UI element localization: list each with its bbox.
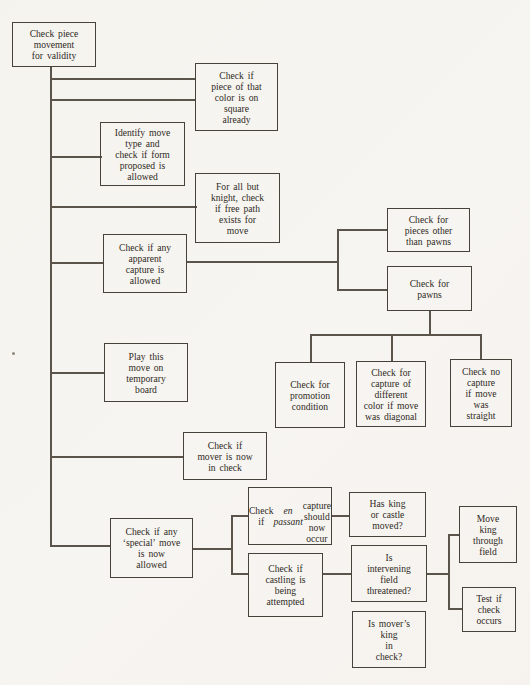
node-label: Check if mover is now in check [197,440,252,473]
node-label: Check no capture if move was straight [462,366,500,421]
node-promotion-condition: Check for promotion condition [275,362,345,428]
node-label-post: capture should now occur [303,489,331,544]
edge-to-castling [231,573,249,575]
node-label: Move king through field [473,513,503,557]
node-label-pre: Check if [249,505,274,527]
edge-special-move-out [192,548,232,550]
edge-intervening-field-out [426,573,449,575]
node-check-piece-movement: Check piece movement for validity [12,22,96,67]
edge-to-pieces-other-than-pawns [337,229,388,231]
edge-pawns-down [429,311,431,335]
edge-branch-mover-in-check [50,456,184,458]
edge-to-pawns [337,289,388,291]
node-label: Check if piece of that color is on squar… [211,70,261,125]
node-free-path: For all but knight, check if free path e… [195,173,280,243]
node-label: For all but knight, check if free path e… [211,181,264,236]
node-label: Check for pieces other than pawns [405,214,453,247]
edge-branch-special-move [50,545,111,547]
node-apparent-capture: Check if any apparent capture is allowed [103,234,187,293]
flowchart-page: Check piece movement for validity Check … [0,0,530,685]
edge-pawns-bar [310,334,481,336]
node-play-on-temporary-board: Play this move on temporary board [104,343,188,402]
edge-castling-to-intervening-field [322,573,352,575]
edge-to-test-if-check-occurs [448,608,463,610]
node-label: Is mover’s king in check? [368,618,410,662]
node-color-on-square: Check if piece of that color is on squar… [195,63,278,131]
node-movers-king-in-check: Is mover’s king in check? [352,611,426,668]
node-castling: Check if castling is being attempted [248,553,323,617]
node-pawns: Check for pawns [387,266,472,311]
node-label: Check if any apparent capture is allowed [119,242,171,286]
edge-en-passant-to-has-king-moved [331,515,350,517]
node-en-passant: Check if en passant capture should now o… [248,487,332,545]
node-has-king-or-castle-moved: Has king or castle moved? [349,492,426,537]
edge-drop-no-capture-straight [480,334,482,360]
node-test-if-check-occurs: Test if check occurs [462,587,516,632]
node-label: Check for capture of different color if … [364,367,419,422]
node-pieces-other-than-pawns: Check for pieces other than pawns [387,208,470,252]
node-label-italic: en passant [273,505,302,527]
node-label: Check for pawns [410,278,450,300]
node-no-capture-straight: Check no capture if move was straight [450,359,512,427]
node-special-move: Check if any ‘special’ move is now allow… [110,518,193,578]
edge-branch-free-path [50,206,197,208]
edge-drop-capture-different-color [391,334,393,362]
edge-to-en-passant [231,515,249,517]
edge-capture-bracket [337,229,339,290]
node-identify-move-type: Identify move type and check if form pro… [100,122,185,186]
node-intervening-field-threatened: Is intervening field threatened? [351,545,427,602]
node-label: Check for promotion condition [290,379,330,412]
edge-branch-identify-move-type [50,156,102,158]
node-label: Play this move on temporary board [126,351,165,395]
edge-drop-promotion [310,334,312,363]
node-mover-in-check: Check if mover is now in check [183,432,267,480]
node-label: Check if any ‘special’ move is now allow… [123,526,181,570]
node-label: Identify move type and check if form pro… [115,127,171,182]
edge-branch-play-on-temporary-board [50,372,105,374]
edge-branch-color-on-square-lower [50,99,196,101]
node-label: Has king or castle moved? [370,498,406,531]
edge-special-bracket [231,515,233,574]
edge-trunk [50,67,52,546]
node-label: Is intervening field threatened? [367,552,411,596]
edge-apparent-capture-out [186,261,338,263]
node-label: Test if check occurs [476,593,502,626]
edge-intervening-bracket [448,534,450,609]
node-capture-different-color: Check for capture of different color if … [356,361,426,427]
edge-branch-apparent-capture [50,262,104,264]
edge-branch-color-on-square-upper [50,78,196,80]
node-move-king-through-field: Move king through field [459,506,517,563]
node-label: Check if castling is being attempted [265,563,305,607]
scan-speck [12,352,15,355]
node-label: Check piece movement for validity [30,28,79,61]
